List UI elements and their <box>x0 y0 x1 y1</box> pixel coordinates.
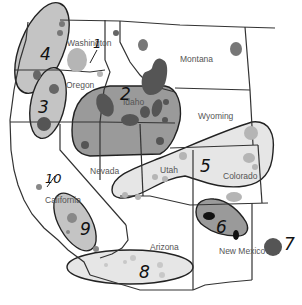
region-number-2: 2 <box>120 84 131 104</box>
region-number-8: 8 <box>139 262 150 282</box>
region-number-10: 10 <box>45 171 62 186</box>
state-label-utah: Utah <box>160 165 178 175</box>
western-us-map: Washington Oregon Idaho Montana Wyoming … <box>0 0 302 305</box>
state-label-colorado: Colorado <box>223 171 258 181</box>
region-number-3: 3 <box>38 97 49 117</box>
state-label-california: California <box>45 195 81 205</box>
state-label-nevada: Nevada <box>90 166 120 176</box>
state-label-arizona: Arizona <box>150 242 179 252</box>
state-label-new-mexico: New Mexico <box>219 246 266 256</box>
region-number-1: 1 <box>93 36 101 51</box>
region-number-5: 5 <box>200 156 211 176</box>
region-number-9: 9 <box>80 219 91 239</box>
region-1-pointer <box>90 50 97 63</box>
region-number-4: 4 <box>40 44 51 64</box>
state-label-washington: Washington <box>67 38 112 48</box>
state-label-oregon: Oregon <box>66 80 95 90</box>
state-label-montana: Montana <box>180 54 213 64</box>
region-number-6: 6 <box>216 217 227 237</box>
region-number-7: 7 <box>284 234 295 254</box>
state-label-wyoming: Wyoming <box>198 111 234 121</box>
